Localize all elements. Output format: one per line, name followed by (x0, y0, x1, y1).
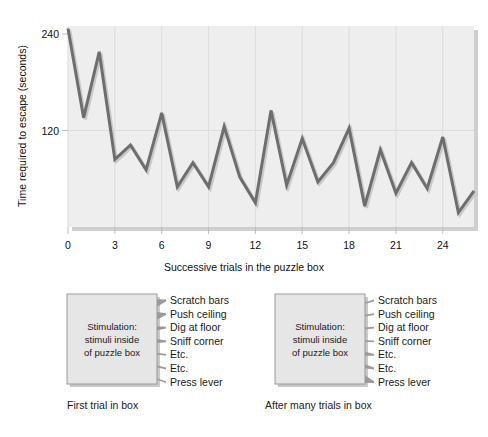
response-arrow (157, 326, 166, 330)
diagram-after-many-trials-canvas: Stimulation:stimuli insideof puzzle box … (252, 288, 488, 434)
response-label: Push ceiling (378, 308, 435, 320)
response-label: Push ceiling (170, 308, 227, 320)
response-label: Sniff corner (378, 335, 432, 347)
x-tick-label: 6 (159, 239, 165, 251)
response-label: Scratch bars (378, 294, 437, 306)
escape-time-line-chart: 120240 03691215182124 Successive trials … (0, 0, 488, 282)
response-labels: Scratch barsPush ceilingDig at floorSnif… (170, 294, 229, 388)
response-arrow (157, 312, 166, 320)
x-tick-label: 0 (65, 239, 71, 251)
x-tick-label: 24 (437, 239, 449, 251)
response-label: Press lever (378, 376, 431, 388)
y-axis-title: Time required to escape (seconds) (16, 45, 28, 207)
response-label: Dig at floor (170, 321, 221, 333)
y-axis-ticks: 120240 (41, 28, 68, 136)
response-label: Etc. (378, 348, 396, 360)
response-arrow (157, 339, 166, 343)
x-tick-label: 3 (112, 239, 118, 251)
response-label: Press lever (170, 376, 223, 388)
response-label: Dig at floor (378, 321, 429, 333)
response-label: Sniff corner (170, 335, 224, 347)
y-tick-label: 120 (41, 125, 59, 137)
response-arrow (365, 352, 374, 356)
stimulus-box-line: of puzzle box (292, 347, 348, 358)
diagram-caption: After many trials in box (265, 399, 373, 411)
stimulus-box-text: Stimulation:stimuli insideof puzzle box (84, 321, 140, 358)
diagram-after-many-trials: Stimulation:stimuli insideof puzzle box … (252, 288, 488, 434)
response-label: Etc. (378, 362, 396, 374)
diagram-first-trial: Stimulation:stimuli insideof puzzle box … (58, 288, 258, 434)
x-tick-label: 15 (296, 239, 308, 251)
x-tick-label: 18 (343, 239, 355, 251)
stimulus-box-line: Stimulation: (295, 321, 345, 332)
x-tick-label: 9 (206, 239, 212, 251)
response-labels: Scratch barsPush ceilingDig at floorSnif… (378, 294, 437, 388)
x-tick-label: 21 (390, 239, 402, 251)
stimulus-box-line: Stimulation: (87, 321, 137, 332)
response-arrow (157, 299, 166, 307)
response-label: Etc. (170, 362, 188, 374)
stimulus-box-line: of puzzle box (84, 347, 140, 358)
y-tick-label: 240 (41, 28, 59, 40)
response-arrow (365, 375, 374, 383)
diagram-first-trial-canvas: Stimulation:stimuli insideof puzzle box … (58, 288, 258, 434)
x-tick-label: 12 (250, 239, 262, 251)
response-label: Etc. (170, 348, 188, 360)
stimulus-box-line: stimuli inside (85, 334, 139, 345)
stimulus-box-text: Stimulation:stimuli insideof puzzle box (292, 321, 348, 358)
response-label: Scratch bars (170, 294, 229, 306)
diagram-caption: First trial in box (67, 399, 139, 411)
x-axis-title: Successive trials in the puzzle box (164, 261, 325, 273)
chart-canvas: 120240 03691215182124 Successive trials … (0, 0, 488, 282)
stimulus-box-line: stimuli inside (293, 334, 347, 345)
response-arrow (365, 340, 374, 342)
